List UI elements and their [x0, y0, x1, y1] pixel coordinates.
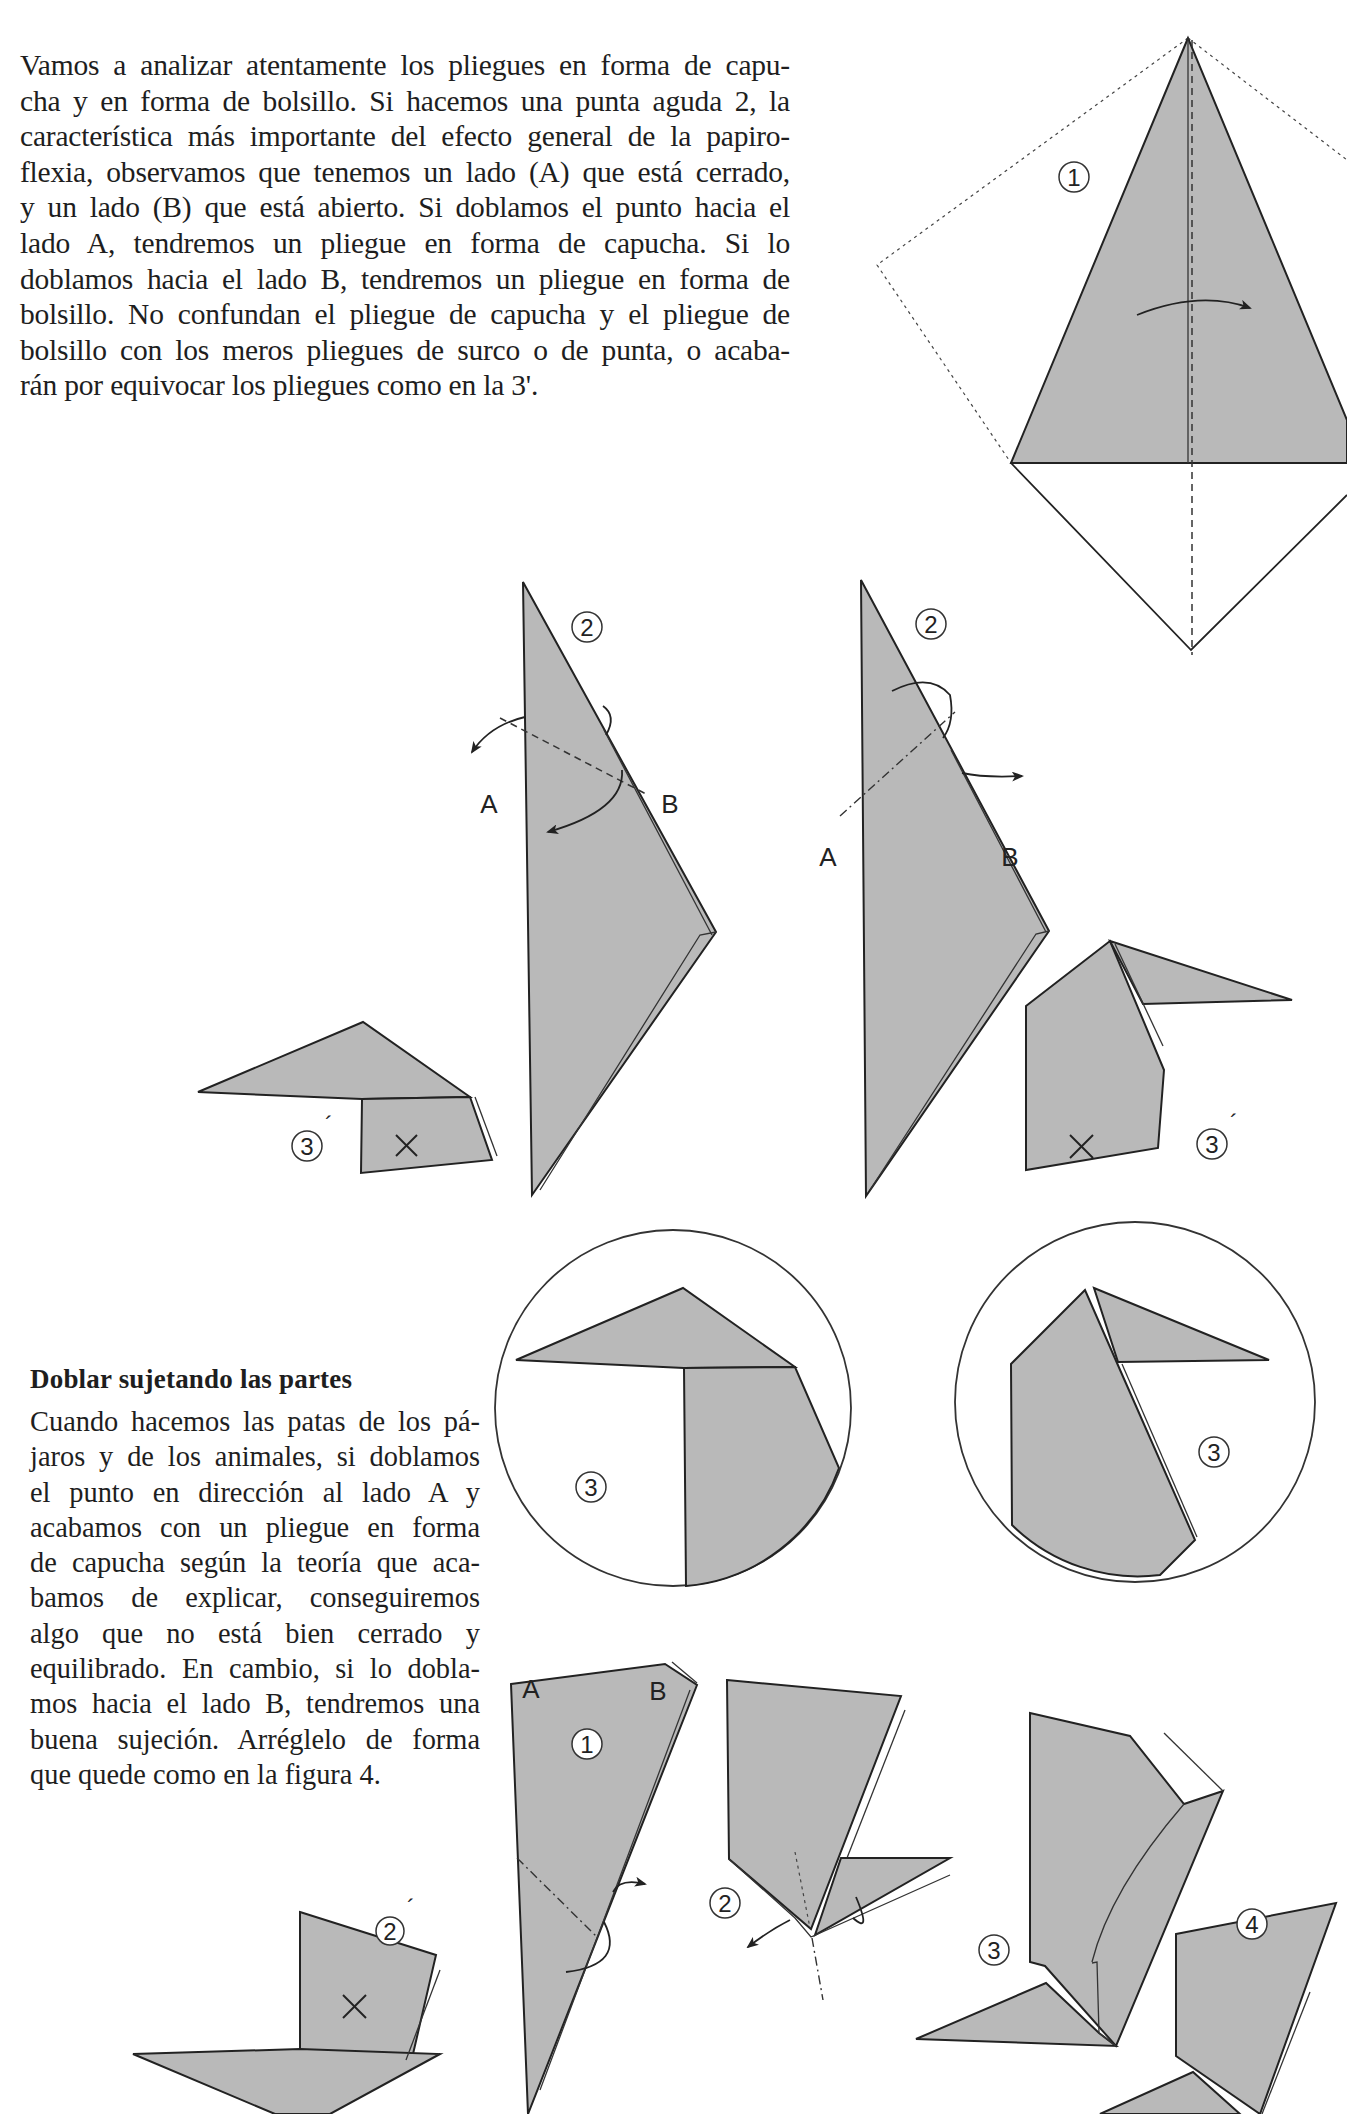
step-number: 1: [1067, 164, 1080, 191]
fold-line: [812, 1938, 823, 2000]
figure-leg-step-2-wrong: 2 ´: [133, 1894, 440, 2114]
wrong-hood-body: [361, 1097, 492, 1173]
fold-arrow-icon: [472, 717, 525, 752]
kite-bottom-outline: [1011, 463, 1347, 650]
figure-leg-step-2: 2: [710, 1680, 950, 2000]
step-number: 3: [1205, 1131, 1218, 1158]
side-a-label: A: [480, 789, 498, 819]
detail-beak: [516, 1288, 795, 1368]
leg-foot: [815, 1858, 950, 1935]
prime-mark: ´: [325, 1111, 333, 1138]
step-number: 4: [1245, 1911, 1258, 1938]
wrong-leg-body: [300, 1912, 436, 2054]
tall-flap: [861, 580, 1049, 1196]
wrong-pocket-beak: [1110, 941, 1292, 1004]
step-number: 3: [987, 1937, 1000, 1964]
figure-hood-fold: 2 A B 3 ´: [198, 582, 716, 1195]
side-b-label: B: [1001, 842, 1018, 872]
figure-kite-step-1: 1: [877, 38, 1347, 655]
detail-body: [684, 1367, 839, 1586]
fold-arrow-icon: [748, 1920, 790, 1947]
figure-pocket-fold: 2 A B 3 ´: [819, 580, 1292, 1196]
side-a-label: A: [819, 842, 837, 872]
figure-leg-step-1: A B 1: [511, 1662, 697, 2114]
fold-arrow-icon: [962, 773, 1022, 777]
step-number: 2: [383, 1918, 396, 1945]
step-number: 2: [924, 611, 937, 638]
leg-flap: [511, 1664, 697, 2114]
step-number: 3: [584, 1474, 597, 1501]
leg-edge: [1164, 1733, 1223, 1791]
step-number: 1: [580, 1731, 593, 1758]
detail-beak: [1094, 1288, 1269, 1362]
detail-circle-hood: 3: [495, 1230, 851, 1586]
side-a-label: A: [522, 1674, 540, 1704]
side-b-label: B: [661, 789, 678, 819]
step-number: 3: [1207, 1439, 1220, 1466]
detail-circle-pocket: 3: [955, 1222, 1315, 1582]
wrong-hood-beak: [198, 1022, 470, 1099]
step-number: 2: [718, 1890, 731, 1917]
step-number: 3: [300, 1133, 313, 1160]
origami-diagrams: 1 2 A B 3 ´ 2 A B: [0, 0, 1347, 2114]
step-number: 2: [580, 614, 593, 641]
wrong-leg-foot: [133, 2049, 440, 2114]
prime-mark: ´: [407, 1894, 415, 1921]
kite-flap: [1011, 38, 1347, 463]
side-b-label: B: [649, 1676, 666, 1706]
prime-mark: ´: [1230, 1109, 1238, 1136]
